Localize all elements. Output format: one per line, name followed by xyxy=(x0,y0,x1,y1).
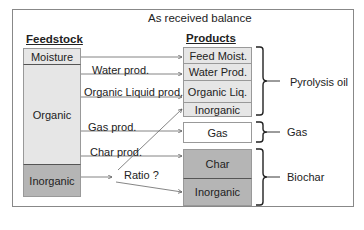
arrow-ratio-to-char xyxy=(116,182,182,192)
flow-label-water-prod: Water prod. xyxy=(92,65,149,76)
group-label-gas: Gas xyxy=(287,127,307,138)
flow-label-ratio: Ratio ? xyxy=(124,170,159,181)
arrow-ratio-to-oil xyxy=(118,109,182,170)
group-label-biochar: Biochar xyxy=(287,172,324,183)
flow-label-gas-prod: Gas prod. xyxy=(88,122,136,133)
flow-label-organic-liquid-prod: Organic Liquid prod. xyxy=(84,87,183,98)
brace-biochar xyxy=(256,149,267,205)
group-label-pyrolysis-oil: Pyrolysis oil xyxy=(290,77,348,88)
brace-pyrolysis-oil xyxy=(256,47,267,115)
flow-arrows xyxy=(0,0,364,230)
brace-gas xyxy=(256,122,267,142)
flow-label-char-prod: Char prod. xyxy=(90,147,142,158)
